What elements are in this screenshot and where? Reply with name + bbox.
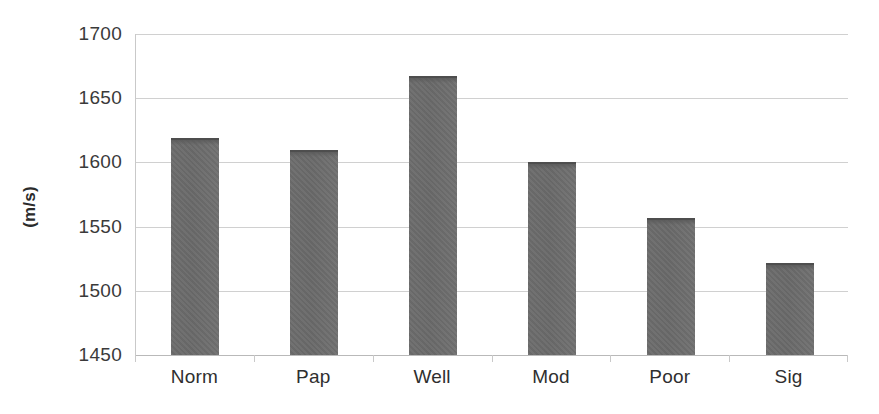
y-axis-title: (m/s) [0,0,60,414]
bar-chart: (m/s) 145015001550160016501700 NormPapWe… [0,0,879,414]
y-axis-tick-label: 1450 [79,344,122,366]
bar [766,263,814,355]
x-axis-tick-label: Mod [532,366,570,388]
plot-area [135,34,848,355]
x-axis-tick [373,355,374,362]
bar [290,150,338,355]
y-axis-tick-label: 1700 [79,23,122,45]
y-axis-tick-label: 1650 [79,87,122,109]
y-axis-tick-label: 1500 [79,280,122,302]
y-axis-title-text: (m/s) [20,186,40,228]
x-axis-tick [729,355,730,362]
x-axis-tick [135,355,136,362]
x-axis-tick [492,355,493,362]
x-axis-tick [254,355,255,362]
x-axis-tick-label: Pap [296,366,330,388]
x-axis-tick-label: Norm [171,366,218,388]
x-axis-tick-labels: NormPapWellModPoorSig [135,366,848,406]
x-axis-tick-label: Poor [649,366,690,388]
x-axis-tick-label: Sig [775,366,803,388]
bar [409,76,457,355]
x-axis-tick-label: Well [413,366,450,388]
bar [171,138,219,355]
bar [647,218,695,355]
y-axis-tick-label: 1600 [79,151,122,173]
y-axis-tick-label: 1550 [79,216,122,238]
x-axis-tick [847,355,848,362]
x-axis-ticks [135,355,848,363]
x-axis-tick [610,355,611,362]
bar [528,162,576,355]
bars-layer [136,34,848,355]
y-axis-tick-labels: 145015001550160016501700 [52,0,130,414]
